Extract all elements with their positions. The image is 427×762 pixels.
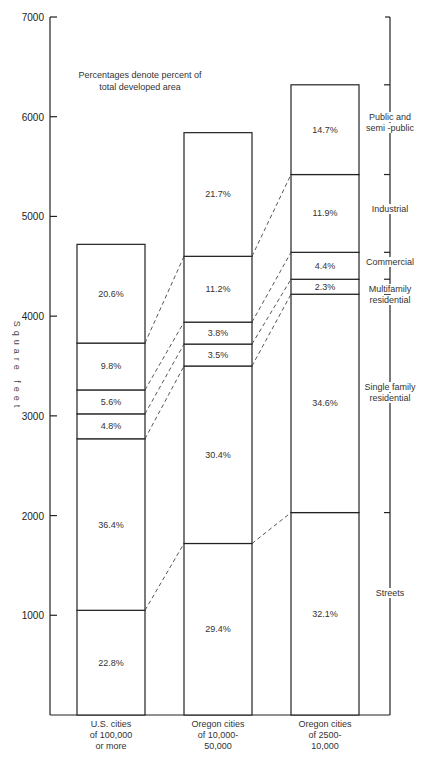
bar-segment-streets: 29.4% xyxy=(184,543,252,715)
legend-label-commercial: Commercial xyxy=(366,257,414,267)
percent-label: 3.8% xyxy=(208,328,229,338)
category-label: 10,000 xyxy=(311,741,339,751)
category-label: Oregon cities xyxy=(298,719,352,729)
legend-label-single-family-residential: residential xyxy=(369,393,410,403)
percent-label: 34.6% xyxy=(312,398,338,408)
connector-line xyxy=(252,294,291,366)
legend-label-multifamily-residential: Multifamily xyxy=(369,284,412,294)
percent-label: 14.7% xyxy=(312,125,338,135)
percent-label: 36.4% xyxy=(98,520,124,530)
annotation-note: total developed area xyxy=(99,82,181,92)
percent-label: 11.9% xyxy=(313,208,338,218)
legend-label-multifamily-residential: residential xyxy=(369,295,410,305)
connector-line xyxy=(252,175,291,257)
connector-line xyxy=(252,513,291,544)
annotation-note: Percentages denote percent of xyxy=(78,70,202,80)
bar-segment-industrial: 11.2% xyxy=(184,256,252,322)
bar-segment-single-family-residential: 36.4% xyxy=(77,439,145,611)
y-tick-label: 7000 xyxy=(22,12,45,23)
bar-segment-commercial: 4.4% xyxy=(291,252,359,279)
bar-segment-single-family-residential: 34.6% xyxy=(291,294,359,512)
y-tick-label: 6000 xyxy=(22,112,45,123)
connector-line xyxy=(145,366,184,439)
percent-label: 11.2% xyxy=(206,284,231,294)
y-tick-label: 2000 xyxy=(22,511,45,522)
category-label: of 10,000- xyxy=(198,730,239,740)
bars: 22.8%36.4%4.8%5.6%9.8%20.6%29.4%30.4%3.5… xyxy=(77,85,359,715)
percent-label: 2.3% xyxy=(315,282,336,292)
connector-line xyxy=(145,543,184,610)
percent-label: 3.5% xyxy=(208,350,229,360)
percent-label: 21.7% xyxy=(205,189,231,199)
connector-line xyxy=(145,344,184,414)
percent-label: 5.6% xyxy=(101,397,122,407)
annotation: Percentages denote percent oftotal devel… xyxy=(78,70,202,92)
bar-segment-streets: 22.8% xyxy=(77,610,145,715)
legend-label-public-and-semi-public: semi -public xyxy=(366,123,415,133)
category-label: 50,000 xyxy=(204,741,232,751)
percent-label: 4.4% xyxy=(315,261,336,271)
category-label: of 2500- xyxy=(308,730,341,740)
legend-bracket: StreetsSingle familyresidentialMultifami… xyxy=(363,17,417,715)
category-labels: U.S. citiesof 100,000or moreOregon citie… xyxy=(90,719,352,751)
bar-segment-public-and-semi-public: 14.7% xyxy=(291,85,359,175)
percent-label: 4.8% xyxy=(101,421,122,431)
y-tick-label: 1000 xyxy=(22,610,45,621)
legend-label-public-and-semi-public: Public and xyxy=(369,112,411,122)
bar-segment-industrial: 9.8% xyxy=(77,343,145,390)
y-axis-label: Square feet xyxy=(12,321,22,412)
percent-label: 9.8% xyxy=(101,361,122,371)
bar-segment-multifamily-residential: 2.3% xyxy=(291,279,359,294)
bar-segment-public-and-semi-public: 20.6% xyxy=(77,244,145,343)
bar-segment-industrial: 11.9% xyxy=(291,175,359,253)
y-tick-label: 4000 xyxy=(22,311,45,322)
legend-label-single-family-residential: Single family xyxy=(364,382,416,392)
bar-segment-commercial: 5.6% xyxy=(77,390,145,414)
percent-label: 30.4% xyxy=(205,450,231,460)
bar-segment-commercial: 3.8% xyxy=(184,322,252,344)
legend-label-industrial: Industrial xyxy=(372,204,409,214)
bar-segment-streets: 32.1% xyxy=(291,513,359,715)
category-label: U.S. cities xyxy=(91,719,132,729)
bar-segment-single-family-residential: 30.4% xyxy=(184,366,252,543)
percent-label: 32.1% xyxy=(312,609,338,619)
percent-label: 22.8% xyxy=(98,658,124,668)
bar-segment-multifamily-residential: 4.8% xyxy=(77,414,145,439)
bar-segment-public-and-semi-public: 21.7% xyxy=(184,133,252,257)
percent-label: 29.4% xyxy=(205,624,231,634)
percent-label: 20.6% xyxy=(98,289,124,299)
bar-segment-multifamily-residential: 3.5% xyxy=(184,344,252,366)
connector-line xyxy=(252,279,291,344)
y-tick-label: 3000 xyxy=(22,411,45,422)
connector-line xyxy=(145,322,184,390)
y-tick-label: 5000 xyxy=(22,211,45,222)
stacked-bar-chart: 1000200030004000500060007000Square feet … xyxy=(0,0,427,762)
category-label: of 100,000 xyxy=(90,730,133,740)
connector-line xyxy=(145,256,184,343)
category-label: Oregon cities xyxy=(191,719,245,729)
category-label: or more xyxy=(95,741,126,751)
legend-label-streets: Streets xyxy=(376,588,405,598)
